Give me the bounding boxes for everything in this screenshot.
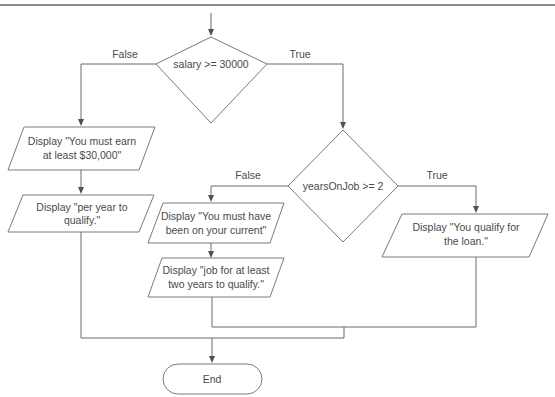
- end-terminator-text: End: [203, 373, 222, 385]
- arrowhead-icon: [78, 187, 84, 194]
- output-job-two-years-line2: two years to qualify.": [168, 278, 264, 290]
- decision-salary: salary >= 30000: [156, 37, 267, 123]
- output-must-have: Display "You must have been on your curr…: [148, 203, 284, 243]
- decision-salary-text: salary >= 30000: [173, 58, 248, 70]
- entry-arrow: [208, 13, 214, 36]
- inner-merge-line: [81, 327, 344, 338]
- output-qualify: Display "You qualify for the loan.": [382, 214, 548, 257]
- output-job-two-years: Display "job for at least two years to q…: [148, 258, 284, 297]
- salary-false-connector: False: [78, 48, 156, 126]
- decision-years: yearsOnJob >= 2: [288, 130, 398, 242]
- salary-true-connector: True: [267, 48, 346, 129]
- output-per-year-line1: Display "per year to: [36, 201, 127, 213]
- arrowhead-icon: [473, 206, 479, 213]
- years-false-connector: False: [208, 169, 288, 202]
- output-must-earn-line2: at least $30,000": [43, 149, 122, 161]
- output-must-have-line1: Display "You must have: [161, 210, 271, 222]
- arrowhead-icon: [340, 122, 346, 129]
- years-false-label: False: [235, 169, 261, 181]
- output-must-earn: Display "You must earn at least $30,000": [8, 127, 155, 170]
- arrowhead-icon: [208, 29, 214, 36]
- arrowhead-icon: [78, 119, 84, 126]
- years-true-connector: True: [398, 169, 479, 213]
- output-must-earn-line1: Display "You must earn: [28, 135, 137, 147]
- output-per-year: Display "per year to qualify.": [8, 195, 154, 232]
- output-must-have-line2: been on your current": [166, 224, 267, 236]
- years-true-label: True: [426, 169, 447, 181]
- output-qualify-line2: the loan.": [444, 235, 488, 247]
- output-job-two-years-line1: Display "job for at least: [162, 264, 269, 276]
- arrowhead-icon: [208, 195, 214, 202]
- salary-true-label: True: [289, 48, 310, 60]
- loan-qualifier-flowchart: salary >= 30000 False True Display "You …: [0, 0, 555, 397]
- mid-mid-arrow: [208, 243, 214, 258]
- arrowhead-icon: [209, 356, 215, 363]
- output-qualify-line1: Display "You qualify for: [412, 221, 520, 233]
- end-terminator: End: [163, 364, 262, 394]
- left-mid-arrow: [78, 170, 84, 194]
- output-per-year-line2: qualify.": [64, 214, 100, 226]
- decision-years-text: yearsOnJob >= 2: [303, 180, 384, 192]
- salary-false-label: False: [112, 48, 138, 60]
- arrowhead-icon: [208, 251, 214, 258]
